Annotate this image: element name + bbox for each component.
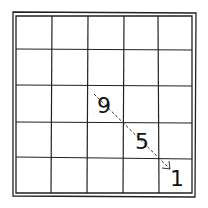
cell-number-9: 9	[97, 95, 111, 117]
grid-diagram: 9 5 1	[0, 0, 208, 208]
cell-number-1: 1	[170, 168, 184, 190]
cell-number-5: 5	[135, 131, 149, 153]
